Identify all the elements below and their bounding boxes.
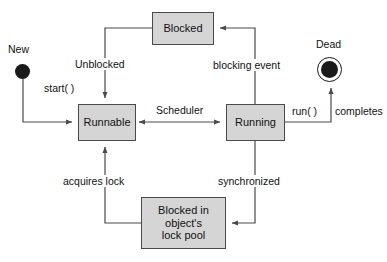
edge-label-scheduler: Scheduler [155,104,204,116]
edge-label-run: run( ) [291,105,318,117]
edge-label-blocking-event: blocking event [212,59,281,71]
state-runnable-label: Runnable [83,116,130,129]
state-blocked[interactable]: Blocked [152,12,214,45]
final-state-dead-inner [321,61,338,78]
state-blocked-label: Blocked [163,22,202,35]
initial-state-new-marker[interactable] [15,64,30,79]
thread-state-diagram: Blocked Runnable Running Blocked in obje… [0,0,387,262]
state-lock-pool-line2: object's [165,217,202,230]
state-running-label: Running [235,116,276,129]
state-lock-pool-line3: lock pool [162,229,205,242]
edge-label-synchronized: synchronized [217,175,281,187]
edge-label-completes: completes [334,105,384,117]
initial-state-new-label: New [8,43,29,55]
state-lock-pool-line1: Blocked in [158,204,209,217]
state-lock-pool[interactable]: Blocked in object's lock pool [141,197,226,249]
edge-label-unblocked: Unblocked [74,58,126,70]
final-state-dead-marker[interactable] [317,57,342,82]
state-runnable[interactable]: Runnable [78,104,136,141]
final-state-dead-label: Dead [316,38,341,50]
edge-label-acquires-lock: acquires lock [62,175,125,187]
state-running[interactable]: Running [226,104,285,141]
edge-label-start: start( ) [43,82,75,94]
